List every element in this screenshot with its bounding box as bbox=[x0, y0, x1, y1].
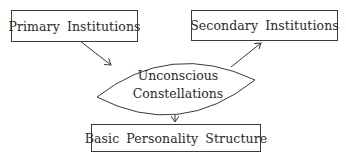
center-label-line2: Constellations bbox=[110, 85, 246, 103]
basic-personality-structure-label: Basic Personality Structure bbox=[85, 131, 268, 146]
arrow-center-to-secondary bbox=[231, 43, 261, 67]
center-label-line1: Unconscious bbox=[110, 67, 246, 85]
basic-personality-structure-box: Basic Personality Structure bbox=[91, 124, 261, 152]
arrow-primary-to-center bbox=[80, 41, 111, 65]
primary-institutions-label: Primary Institutions bbox=[8, 19, 140, 34]
secondary-institutions-label: Secondary Institutions bbox=[190, 18, 339, 33]
primary-institutions-box: Primary Institutions bbox=[11, 10, 138, 42]
secondary-institutions-box: Secondary Institutions bbox=[191, 10, 338, 41]
unconscious-constellations-node: Unconscious Constellations bbox=[110, 67, 246, 103]
